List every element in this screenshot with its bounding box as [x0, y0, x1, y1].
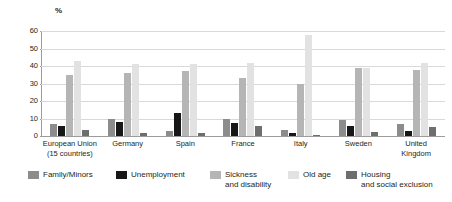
- bar: [413, 70, 420, 137]
- legend-swatch-icon: [210, 171, 221, 179]
- bar: [166, 131, 173, 136]
- bar: [182, 71, 189, 136]
- y-tick-label: 20: [22, 97, 38, 105]
- bar-group: [330, 31, 388, 136]
- bar: [289, 133, 296, 137]
- legend-item[interactable]: Family/Minors: [28, 170, 93, 180]
- bar: [305, 35, 312, 137]
- bar: [339, 120, 346, 136]
- bar: [239, 78, 246, 136]
- y-tick-label: 10: [22, 115, 38, 123]
- bar: [429, 127, 436, 136]
- bar-group: [387, 31, 445, 136]
- legend-item[interactable]: Sickness and disability: [210, 170, 271, 189]
- bar: [405, 131, 412, 136]
- bar: [66, 75, 73, 136]
- y-tick-label: 0: [22, 132, 38, 140]
- legend-swatch-icon: [288, 171, 299, 179]
- chart-legend: Family/MinorsUnemploymentSickness and di…: [28, 170, 448, 196]
- bar: [231, 123, 238, 136]
- y-axis-unit-label: %: [55, 6, 62, 15]
- bar: [190, 64, 197, 136]
- bar: [363, 68, 370, 136]
- bar: [116, 122, 123, 136]
- legend-item[interactable]: Unemployment: [116, 170, 185, 180]
- bar: [313, 135, 320, 136]
- plot-area: [41, 31, 445, 136]
- bar: [421, 63, 428, 137]
- bar: [397, 124, 404, 136]
- x-axis-label: United Kingdom: [387, 139, 445, 158]
- bar-group: [99, 31, 157, 136]
- legend-item-label: Old age: [303, 170, 331, 180]
- bar: [255, 126, 262, 137]
- bar: [355, 68, 362, 136]
- y-tick-label: 30: [22, 80, 38, 88]
- bar: [347, 126, 354, 136]
- x-axis-label: Spain: [156, 139, 214, 149]
- bar-group: [214, 31, 272, 136]
- y-tick-label: 40: [22, 62, 38, 70]
- bar: [281, 130, 288, 136]
- legend-item-label: Sickness and disability: [225, 170, 271, 189]
- bar: [247, 63, 254, 137]
- top-rule: [0, 0, 452, 1]
- x-axis-category-labels: European Union (15 countries)GermanySpai…: [41, 139, 445, 161]
- bar-group: [156, 31, 214, 136]
- bar-group: [41, 31, 99, 136]
- legend-swatch-icon: [116, 171, 127, 179]
- x-axis-label: France: [214, 139, 272, 149]
- bar-group: [272, 31, 330, 136]
- legend-item-label: Family/Minors: [43, 170, 93, 180]
- bar: [132, 64, 139, 136]
- x-axis-label: Italy: [272, 139, 330, 149]
- bar: [124, 73, 131, 136]
- bar: [140, 133, 147, 137]
- y-axis-tick-labels: 0102030405060: [18, 31, 38, 136]
- bar: [198, 133, 205, 137]
- x-axis-label: Germany: [99, 139, 157, 149]
- legend-swatch-icon: [346, 171, 357, 179]
- bar: [58, 126, 65, 137]
- bar: [82, 130, 89, 136]
- bar: [74, 61, 81, 136]
- bar: [223, 119, 230, 136]
- legend-item[interactable]: Old age: [288, 170, 331, 180]
- x-axis-line: [41, 136, 445, 137]
- legend-item-label: Housing and social exclusion: [361, 170, 433, 189]
- bar: [297, 84, 304, 137]
- legend-swatch-icon: [28, 171, 39, 179]
- chart-figure: % 0102030405060 European Union (15 count…: [0, 0, 452, 202]
- y-tick-label: 60: [22, 27, 38, 35]
- legend-item[interactable]: Housing and social exclusion: [346, 170, 433, 189]
- bar: [50, 124, 57, 136]
- x-axis-label: Sweden: [330, 139, 388, 149]
- bar: [371, 132, 378, 136]
- bar: [108, 119, 115, 137]
- y-tick-label: 50: [22, 45, 38, 53]
- legend-item-label: Unemployment: [131, 170, 185, 180]
- x-axis-label: European Union (15 countries): [41, 139, 99, 158]
- bar: [174, 113, 181, 136]
